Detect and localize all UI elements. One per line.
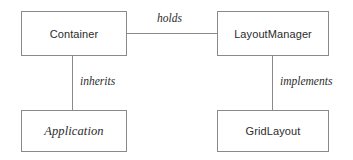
node-gridlayout-label: GridLayout <box>246 125 301 137</box>
node-application[interactable]: Application <box>21 110 127 152</box>
node-container-label: Container <box>50 28 99 40</box>
class-diagram-canvas: holds inherits implements Container Layo… <box>0 0 353 160</box>
connector-inherits <box>72 56 73 110</box>
edge-label-implements: implements <box>278 75 334 87</box>
node-gridlayout[interactable]: GridLayout <box>217 110 329 152</box>
node-container[interactable]: Container <box>21 11 127 56</box>
connector-holds <box>127 33 217 34</box>
node-application-label: Application <box>44 124 103 139</box>
node-layoutmanager[interactable]: LayoutManager <box>217 11 329 56</box>
node-layoutmanager-label: LayoutManager <box>234 28 312 40</box>
edge-label-holds: holds <box>155 12 184 24</box>
edge-label-inherits: inherits <box>78 75 117 87</box>
connector-implements <box>272 56 273 110</box>
